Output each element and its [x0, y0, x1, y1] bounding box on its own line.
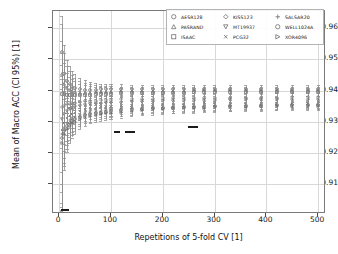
legend-item-mt19937[interactable]: MT19937 — [221, 22, 273, 32]
error-bar-cap — [109, 119, 112, 120]
error-bar-cap — [63, 45, 66, 46]
error-bar-cap — [60, 84, 63, 85]
error-bar-cap — [84, 85, 87, 86]
legend-item-pcg32[interactable]: PCG32 — [221, 32, 273, 42]
error-bar-cap — [141, 106, 144, 107]
data-point-xor4096 — [275, 104, 280, 109]
error-bar-cap — [291, 93, 294, 94]
error-bar-cap — [104, 93, 107, 94]
error-bar-cap — [78, 105, 81, 106]
x-tick-mark — [317, 213, 318, 217]
error-bar-cap — [68, 143, 71, 144]
x-tick-label: 400 — [245, 216, 285, 224]
error-bar-cap — [99, 105, 102, 106]
legend-item-aesr128[interactable]: AESR128 — [169, 12, 221, 22]
error-bar-cap — [120, 118, 123, 119]
error-bar-cap — [60, 79, 63, 80]
error-bar-cap — [73, 78, 76, 79]
error-bar-cap — [229, 111, 232, 112]
error-bar-cap — [78, 78, 81, 79]
error-bar-cap — [104, 120, 107, 121]
data-point-xor4096 — [228, 105, 233, 110]
square-icon — [169, 33, 179, 42]
error-bar-cap — [60, 65, 63, 66]
error-bar-cap — [130, 85, 133, 86]
error-bar-cap — [182, 113, 185, 114]
error-bar-cap — [68, 84, 71, 85]
error-bar-cap — [104, 84, 107, 85]
error-bar-cap — [182, 93, 185, 94]
gridline-horizontal — [53, 184, 324, 185]
error-bar-cap — [94, 122, 97, 123]
data-point-xor4096 — [130, 109, 135, 114]
error-bar-cap — [84, 92, 87, 93]
cross-icon — [221, 33, 231, 42]
error-bar-cap — [120, 84, 123, 85]
error-bar-cap — [161, 93, 164, 94]
error-bar-cap — [60, 53, 63, 54]
error-bar-cap — [120, 93, 123, 94]
error-bar-cap — [65, 93, 68, 94]
error-bar-cap — [161, 96, 164, 97]
legend-item-isaac[interactable]: ISAAC — [169, 32, 221, 42]
error-bar-cap — [260, 93, 263, 94]
error-bar-cap — [89, 86, 92, 87]
legend-label: ISAAC — [181, 35, 195, 40]
error-bar-cap — [203, 112, 206, 113]
error-bar-cap — [244, 93, 247, 94]
error-bar-cap — [275, 110, 278, 111]
triangle-right-icon — [273, 33, 283, 42]
error-bar-cap — [73, 104, 76, 105]
error-bar-cap — [73, 99, 76, 100]
error-bar-cap — [78, 101, 81, 102]
error-bar — [62, 89, 63, 213]
error-bar-cap — [63, 91, 66, 92]
error-bar-cap — [71, 75, 74, 76]
data-point-xor4096 — [140, 108, 145, 113]
error-bar-cap — [65, 104, 68, 105]
error-bar-cap — [213, 96, 216, 97]
error-bar-cap — [104, 102, 107, 103]
error-bar-cap — [73, 93, 76, 94]
error-bar-cap — [63, 63, 66, 64]
error-bar-cap — [229, 93, 232, 94]
legend-item-xor4096[interactable]: XOR4096 — [273, 32, 325, 42]
error-bar-cap — [203, 88, 206, 89]
error-bar-cap — [60, 16, 63, 17]
error-bar-cap — [78, 81, 81, 82]
error-bar-cap — [89, 102, 92, 103]
error-bar-cap — [244, 96, 247, 97]
legend-item-kiss123[interactable]: KISS123 — [221, 12, 273, 22]
error-bar-cap — [275, 96, 278, 97]
error-bar-cap — [244, 88, 247, 89]
error-bar-cap — [260, 111, 263, 112]
error-bar-cap — [244, 111, 247, 112]
legend-item-salsar20[interactable]: SALSAR20 — [273, 12, 325, 22]
error-bar-cap — [109, 102, 112, 103]
error-bar-cap — [141, 93, 144, 94]
gridline-horizontal — [53, 153, 324, 154]
triangle-up-icon — [169, 23, 179, 32]
legend-item-well1024a[interactable]: WELL1024A — [273, 22, 325, 32]
legend-label: PASRAND — [181, 25, 203, 30]
legend[interactable]: AESR128KISS123SALSAR20PASRANDMT19937WELL… — [166, 9, 324, 45]
error-bar-cap — [130, 93, 133, 94]
x-tick-mark — [162, 213, 163, 217]
error-bar-cap — [78, 95, 81, 96]
error-bar-cap — [192, 93, 195, 94]
circle-open-icon — [273, 23, 283, 32]
legend-item-pasrand[interactable]: PASRAND — [169, 22, 221, 32]
data-point-xor4096 — [316, 104, 321, 109]
x-tick-mark — [265, 213, 266, 217]
error-bar-cap — [99, 96, 102, 97]
data-point-xor4096 — [182, 106, 187, 111]
y-axis-label: Mean of Macro ACC (CI 95%) [1] — [12, 10, 21, 200]
error-bar-cap — [151, 96, 154, 97]
error-bar-cap — [203, 96, 206, 97]
highlight-segment — [188, 126, 198, 128]
error-bar-cap — [84, 110, 87, 111]
error-bar-cap — [65, 81, 68, 82]
error-bar-cap — [71, 138, 74, 139]
error-bar-cap — [60, 76, 63, 77]
error-bar-cap — [275, 93, 278, 94]
